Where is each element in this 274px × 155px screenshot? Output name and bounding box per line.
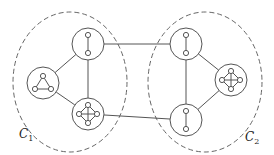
inner-vertex bbox=[183, 108, 188, 113]
inner-vertex bbox=[85, 32, 90, 37]
inner-vertex bbox=[40, 73, 45, 78]
inner-vertex bbox=[32, 86, 37, 91]
inner-vertex bbox=[94, 111, 99, 116]
edge-r-top-r-k4 bbox=[198, 54, 218, 70]
inner-vertex bbox=[76, 111, 81, 116]
inner-vertex bbox=[85, 120, 90, 125]
hierarchical-graph-diagram bbox=[0, 0, 274, 155]
inner-vertex bbox=[228, 86, 233, 91]
inner-vertex bbox=[183, 50, 188, 55]
inner-vertex bbox=[183, 32, 188, 37]
inner-vertex bbox=[228, 68, 233, 73]
edge-r-k4-r-bot bbox=[198, 91, 219, 110]
edge-l-top-l-tri bbox=[55, 54, 76, 72]
inner-vertex bbox=[237, 77, 242, 82]
edge-l-k4-r-bot bbox=[104, 115, 170, 119]
cluster-label-c2: C2 bbox=[245, 131, 259, 146]
cluster-label-c1: C1 bbox=[19, 128, 33, 143]
inner-vertex bbox=[85, 102, 90, 107]
inner-vertex bbox=[219, 77, 224, 82]
inner-vertex bbox=[85, 50, 90, 55]
inner-vertex bbox=[48, 86, 53, 91]
supernode-l-tri bbox=[27, 67, 59, 99]
edge-l-tri-l-k4 bbox=[56, 92, 75, 105]
inner-vertex bbox=[183, 126, 188, 131]
